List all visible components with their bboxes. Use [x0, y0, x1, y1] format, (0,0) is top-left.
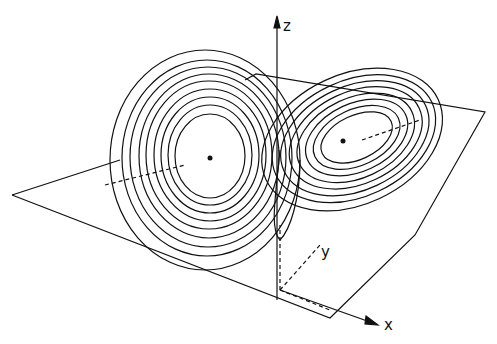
- right-fixed-point: [341, 139, 346, 144]
- left-wing: [110, 50, 300, 270]
- attractor-drawing: [0, 0, 497, 344]
- left-fixed-point: [208, 156, 213, 161]
- x-axis-label: x: [384, 316, 393, 334]
- reference-plane: [12, 160, 120, 195]
- lorenz-attractor-figure: z y x: [0, 0, 497, 344]
- y-axis-label: y: [321, 243, 330, 261]
- right-wing: [239, 40, 466, 238]
- z-axis-label: z: [283, 17, 291, 35]
